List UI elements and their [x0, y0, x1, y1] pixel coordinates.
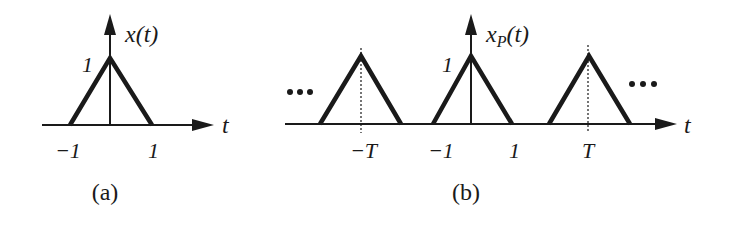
peak-label-b: 1 — [442, 52, 453, 77]
tick-label-1-a: 1 — [148, 138, 159, 163]
caption-a: (a) — [92, 179, 119, 205]
x-axis-arrow-icon — [465, 14, 477, 35]
tick-label-1-b: 1 — [509, 138, 520, 163]
function-label-a: x(t) — [124, 21, 158, 47]
peak-label-a: 1 — [82, 52, 93, 77]
panel-a: x(t) 1 t −1 1 (a) — [42, 14, 230, 205]
ellipsis-left-icon — [287, 89, 313, 95]
tick-label-T: T — [582, 138, 596, 163]
triangle-pulse-T — [549, 56, 630, 124]
ellipsis-right-icon — [629, 81, 657, 87]
tick-label-neg1-b: −1 — [428, 138, 454, 163]
t-axis-arrow-icon — [192, 119, 214, 131]
tick-label-neg-T: −T — [350, 138, 379, 163]
axis-label-t-a: t — [222, 112, 230, 138]
t-axis-arrow-icon — [655, 118, 677, 130]
diagram-canvas: x(t) 1 t −1 1 (a) xP(t) — [0, 0, 732, 231]
x-axis-arrow-icon — [104, 14, 116, 35]
panel-b: xP(t) 1 t −T −1 1 T (b) — [285, 14, 692, 205]
function-label-b: xP(t) — [485, 21, 529, 50]
caption-b: (b) — [452, 179, 480, 205]
tick-label-neg1-a: −1 — [55, 138, 81, 163]
axis-label-t-b: t — [684, 112, 692, 138]
